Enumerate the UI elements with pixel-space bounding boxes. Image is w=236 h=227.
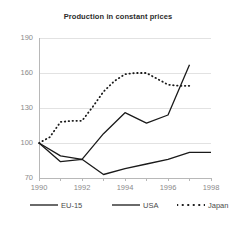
x-tick-label: 1996 <box>153 184 183 192</box>
y-tick-label: 130 <box>9 104 33 112</box>
legend-label: USA <box>143 201 158 210</box>
legend-item-japan[interactable]: Japan <box>177 199 228 211</box>
chart-legend: EU-15USAJapan <box>0 198 236 214</box>
series-line-eu-15 <box>39 143 211 175</box>
x-tick-label: 1992 <box>67 184 97 192</box>
x-tick-label: 1998 <box>196 184 226 192</box>
y-tick-label: 160 <box>9 69 33 77</box>
legend-label: EU-15 <box>61 201 82 210</box>
y-tick-label: 70 <box>9 174 33 182</box>
legend-swatch-dashed <box>177 200 205 210</box>
x-tick-label: 1990 <box>24 184 54 192</box>
series-line-usa <box>39 65 190 160</box>
legend-label: Japan <box>208 201 228 210</box>
y-tick-label: 100 <box>9 139 33 147</box>
legend-swatch-solid <box>112 200 140 210</box>
x-tick-label: 1994 <box>110 184 140 192</box>
legend-swatch-solid <box>30 200 58 210</box>
chart-plot-area <box>0 0 236 227</box>
legend-item-usa[interactable]: USA <box>112 199 158 211</box>
legend-item-eu-15[interactable]: EU-15 <box>30 199 82 211</box>
chart-container: Production in constant prices 7010013016… <box>0 0 236 227</box>
y-tick-label: 190 <box>9 34 33 42</box>
data-series-layer <box>39 65 211 175</box>
